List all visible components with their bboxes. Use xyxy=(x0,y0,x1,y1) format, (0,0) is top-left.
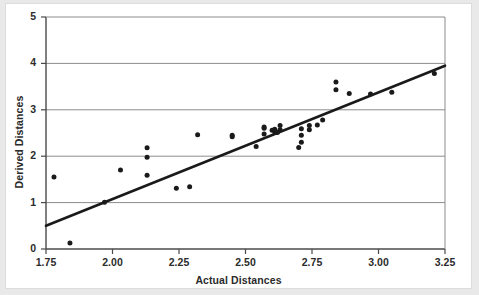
y-tick-label: 4 xyxy=(16,56,36,68)
x-tick-label: 2.75 xyxy=(292,256,332,268)
data-point xyxy=(51,175,56,180)
data-point xyxy=(347,91,352,96)
data-point xyxy=(368,92,373,97)
data-point xyxy=(299,140,304,145)
scatter-plot-canvas xyxy=(6,4,471,288)
data-point xyxy=(333,87,338,92)
y-tick-label: 5 xyxy=(16,10,36,22)
data-point xyxy=(278,127,283,132)
data-point xyxy=(145,155,150,160)
gridlines-group xyxy=(46,63,445,202)
data-point xyxy=(145,145,150,150)
axis-ticks xyxy=(41,17,445,254)
data-point xyxy=(262,131,267,136)
x-tick-label: 1.75 xyxy=(26,256,66,268)
chart-figure: 1.752.002.252.502.753.003.25 012345 Actu… xyxy=(6,4,471,288)
data-point xyxy=(296,145,301,150)
data-point xyxy=(432,71,437,76)
x-tick-label: 2.25 xyxy=(159,256,199,268)
data-point xyxy=(67,240,72,245)
x-tick-label: 3.25 xyxy=(425,256,465,268)
data-point xyxy=(299,133,304,138)
y-tick-label: 0 xyxy=(16,242,36,254)
data-point xyxy=(254,144,259,149)
data-point xyxy=(174,186,179,191)
plot-frame xyxy=(46,17,445,249)
x-tick-label: 2.00 xyxy=(93,256,133,268)
data-point xyxy=(333,79,338,84)
x-tick-label: 3.00 xyxy=(359,256,399,268)
data-point xyxy=(195,132,200,137)
data-point xyxy=(102,200,107,205)
data-point xyxy=(320,118,325,123)
y-axis-title: Derived Distances xyxy=(13,77,25,207)
data-point xyxy=(187,184,192,189)
data-point xyxy=(299,126,304,131)
data-point xyxy=(118,168,123,173)
data-point xyxy=(145,173,150,178)
data-point xyxy=(315,123,320,128)
data-point xyxy=(389,90,394,95)
x-tick-label: 2.50 xyxy=(226,256,266,268)
data-point xyxy=(307,123,312,128)
x-axis-title: Actual Distances xyxy=(6,274,471,286)
data-point xyxy=(230,134,235,139)
data-points-group xyxy=(51,71,436,245)
data-point xyxy=(262,126,267,131)
